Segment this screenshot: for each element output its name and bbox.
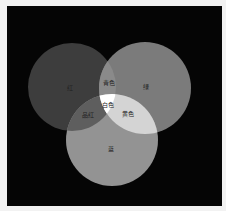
label-red-blue: 品红: [82, 111, 94, 119]
label-red-green: 青色: [103, 79, 115, 87]
label-center: 白色: [102, 101, 114, 109]
label-green: 绿: [143, 83, 149, 90]
label-green-blue: 黄色: [122, 110, 134, 118]
label-blue: 蓝: [108, 145, 114, 152]
label-red: 红: [67, 84, 73, 91]
venn-diagram: 红 绿 蓝 青色 品红 黄色 白色: [0, 0, 226, 211]
